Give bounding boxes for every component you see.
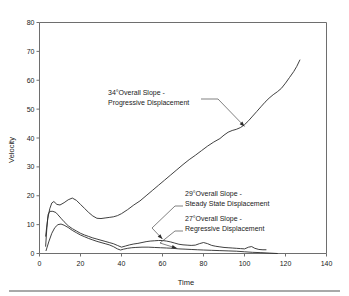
annotation-steady-state-line1: 29°Overall Slope - xyxy=(185,190,243,198)
chart-background xyxy=(0,0,349,296)
x-tick-label-0: 0 xyxy=(38,260,42,267)
y-tick-label-0: 0 xyxy=(31,250,35,257)
y-tick-label-80: 80 xyxy=(27,19,35,26)
x-tick-label-40: 40 xyxy=(118,260,126,267)
x-tick-label-80: 80 xyxy=(200,260,208,267)
x-tick-label-100: 100 xyxy=(239,260,251,267)
y-tick-label-60: 60 xyxy=(27,77,35,84)
chart-figure: 01020304050607080 020406080100120140 34°… xyxy=(0,0,349,296)
annotation-progressive-line2: Progressive Displacement xyxy=(108,99,189,107)
annotation-regressive-line1: 27°Overall Slope - xyxy=(185,215,243,223)
y-tick-label-20: 20 xyxy=(27,192,35,199)
x-tick-label-120: 120 xyxy=(280,260,292,267)
annotation-regressive-line2: Regressive Displacement xyxy=(185,225,264,233)
velocity-time-chart: 01020304050607080 020406080100120140 34°… xyxy=(0,0,349,296)
annotation-steady-state-line2: Steady State Displacement xyxy=(185,200,269,208)
x-tick-label-140: 140 xyxy=(321,260,333,267)
x-tick-label-20: 20 xyxy=(77,260,85,267)
x-tick-label-60: 60 xyxy=(159,260,167,267)
y-tick-label-70: 70 xyxy=(27,48,35,55)
y-tick-label-50: 50 xyxy=(27,106,35,113)
y-axis-label: Velocity xyxy=(7,137,16,163)
annotation-progressive-line1: 34°Overall Slope - xyxy=(108,89,166,97)
x-axis-label: Time xyxy=(178,278,194,287)
y-tick-label-10: 10 xyxy=(27,221,35,228)
y-tick-label-40: 40 xyxy=(27,135,35,142)
y-tick-label-30: 30 xyxy=(27,163,35,170)
